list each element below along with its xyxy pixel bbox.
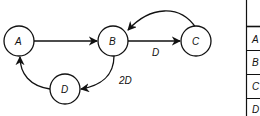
- node-b: B: [98, 26, 128, 56]
- graph-diagram: A B C D D 2D A B C D: [0, 0, 260, 116]
- node-c-label: C: [192, 36, 200, 47]
- table-row-label-b: B: [252, 57, 259, 68]
- edge-c-b: [128, 11, 196, 30]
- node-d-label: D: [61, 84, 68, 95]
- table-row-label-c: C: [252, 81, 260, 92]
- edge-b-d: [81, 56, 114, 89]
- table-row-label-a: A: [251, 34, 259, 45]
- node-d: D: [50, 74, 80, 104]
- node-b-label: B: [109, 36, 116, 47]
- node-a-label: A: [14, 36, 22, 47]
- edge-d-a: [20, 57, 50, 89]
- node-c: C: [181, 26, 211, 56]
- node-a: A: [4, 26, 34, 56]
- adjacency-table: A B C D: [246, 0, 260, 116]
- edge-b-d-label: 2D: [118, 75, 132, 86]
- edge-b-c-label: D: [152, 47, 159, 58]
- table-row-label-d: D: [252, 104, 259, 115]
